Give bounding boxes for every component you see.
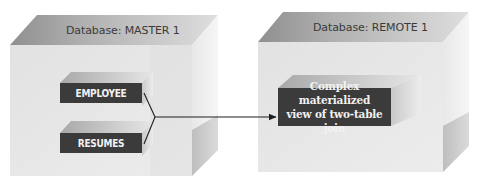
table-label-resumes: RESUMES <box>60 133 142 153</box>
table-label-employee: EMPLOYEE <box>60 83 142 103</box>
diagram-canvas: Database: MASTER 1 Database: REMOTE 1 EM… <box>0 0 481 185</box>
view-label-line1: Complex materialized <box>278 79 391 107</box>
database-label-remote1: Database: REMOTE 1 <box>313 21 428 34</box>
view-label-complex: Complex materialized view of two-table j… <box>278 88 391 126</box>
database-label-master1: Database: MASTER 1 <box>66 24 180 37</box>
view-label-line2: view of two-table join <box>278 107 391 135</box>
